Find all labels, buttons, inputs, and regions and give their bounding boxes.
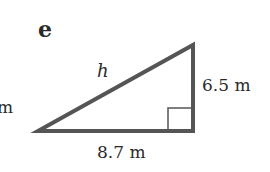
hypotenuse-label: h xyxy=(97,62,109,80)
right-angle-marker xyxy=(168,108,193,131)
triangle-outline xyxy=(38,45,193,131)
vertical-side-label: 6.5 m xyxy=(202,77,251,94)
horizontal-side-label: 8.7 m xyxy=(97,144,146,161)
